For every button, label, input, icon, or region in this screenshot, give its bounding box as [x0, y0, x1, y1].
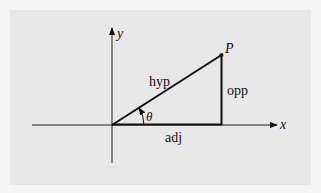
angle-label: θ — [146, 109, 153, 124]
angle-arc-icon — [139, 108, 144, 125]
hypotenuse-side — [112, 55, 222, 125]
x-axis-label: x — [279, 117, 287, 132]
adjacent-label: adj — [165, 130, 182, 145]
hypotenuse-label: hyp — [149, 74, 170, 89]
y-axis-label: y — [115, 26, 124, 41]
point-p-label: P — [224, 41, 234, 56]
triangle-diagram: y x P hyp opp adj θ — [0, 0, 321, 193]
opposite-label: opp — [227, 83, 248, 98]
point-p-dot — [220, 53, 224, 57]
